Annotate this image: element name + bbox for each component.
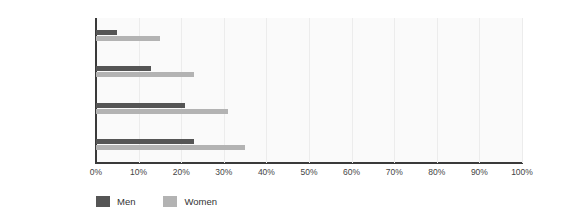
legend-swatch-icon: [163, 196, 177, 207]
legend-swatch-icon: [96, 196, 110, 207]
bar-men: [96, 66, 151, 71]
bar-women: [96, 72, 194, 77]
legend-item-women[interactable]: Women: [163, 196, 217, 207]
legend-item-men[interactable]: Men: [96, 196, 135, 207]
x-tick-label: 90%: [459, 167, 499, 177]
category-row: Third level: [0, 127, 579, 163]
legend-label: Men: [117, 196, 135, 207]
legend-label: Women: [184, 196, 217, 207]
x-tick-label: 40%: [246, 167, 286, 177]
x-tick-label: 80%: [417, 167, 457, 177]
bar-women: [96, 36, 160, 41]
x-tick-label: 60%: [332, 167, 372, 177]
x-tick-label: 100%: [502, 167, 542, 177]
x-tick-label: 50%: [289, 167, 329, 177]
category-row: Higher secondary: [0, 91, 579, 127]
x-tick-label: 70%: [374, 167, 414, 177]
bar-men: [96, 30, 117, 35]
bar-men: [96, 139, 194, 144]
x-tick-label: 30%: [204, 167, 244, 177]
x-tick-label: 0%: [76, 167, 116, 177]
category-row: Lower secondary: [0, 54, 579, 90]
chart-legend: MenWomen: [96, 196, 217, 207]
x-tick-label: 20%: [161, 167, 201, 177]
category-row: Primary: [0, 18, 579, 54]
x-tick-label: 10%: [119, 167, 159, 177]
bar-men: [96, 103, 185, 108]
bar-women: [96, 145, 245, 150]
bar-chart: PrimaryLower secondaryHigher secondaryTh…: [0, 0, 579, 223]
bar-women: [96, 109, 228, 114]
